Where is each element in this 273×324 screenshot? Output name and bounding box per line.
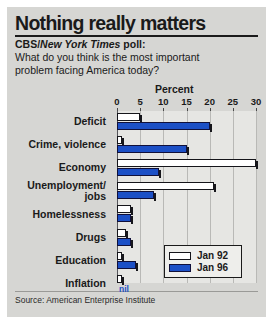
source-note: Source: American Enterprise Institute [15, 295, 155, 305]
gridline [256, 111, 257, 283]
bar-jan96 [117, 122, 210, 130]
category-label: Homelessness [32, 209, 106, 221]
x-axis-title: Percent [155, 83, 194, 95]
category-label: Drugs [76, 232, 106, 244]
bar-row [117, 111, 256, 134]
bar-jan92 [117, 159, 256, 167]
legend-item-old: Jan 92 [169, 250, 237, 261]
source-divider [15, 291, 258, 292]
legend-swatch-jan92 [169, 252, 191, 260]
page-title: Nothing really matters [15, 12, 205, 35]
nil-annotation: nil [119, 284, 129, 294]
category-label-line: Deficit [74, 116, 106, 128]
bar-shadow [131, 240, 133, 248]
category-label: Unemployment/jobs [27, 180, 106, 203]
bar-jan92 [117, 113, 140, 121]
category-label: Deficit [74, 116, 106, 128]
category-label: Inflation [65, 278, 106, 290]
bar-shadow [136, 263, 138, 271]
x-tick-label: 10 [158, 96, 169, 107]
legend-item-new: Jan 96 [169, 262, 237, 273]
bar-jan92 [117, 205, 131, 213]
poll-attribution: CBS/New York Times poll: [15, 38, 146, 50]
poll-question: What do you think is the most important … [15, 51, 233, 76]
category-label-line: Drugs [76, 232, 106, 244]
category-label-line: jobs [27, 191, 106, 203]
poll-suffix: poll: [120, 38, 145, 50]
legend-label-jan96: Jan 96 [197, 262, 228, 273]
category-label-line: Education [55, 255, 106, 267]
bar-jan96 [117, 214, 131, 222]
bar-jan96 [117, 168, 159, 176]
x-tick-label: 0 [114, 96, 119, 107]
bar-shadow [256, 161, 258, 169]
category-label-line: Economy [59, 162, 106, 174]
x-tick-label: 30 [251, 96, 262, 107]
bar-row [117, 157, 256, 180]
legend-swatch-jan96 [169, 264, 191, 272]
legend-label-jan92: Jan 92 [197, 250, 228, 261]
bar-jan96 [117, 238, 131, 246]
x-tick-label: 25 [228, 96, 239, 107]
x-tick-label: 5 [138, 96, 143, 107]
category-label-line: Crime, violence [28, 139, 106, 151]
bar-jan92 [117, 229, 126, 237]
category-label-line: Homelessness [32, 209, 106, 221]
bar-shadow [214, 184, 216, 192]
title-divider [15, 35, 258, 37]
category-label: Crime, violence [28, 139, 106, 151]
chart-canvas: Nothing really matters CBS/New York Time… [7, 7, 266, 317]
bar-shadow [159, 170, 161, 178]
bar-shadow [210, 124, 212, 132]
poll-publication: New York Times [40, 38, 120, 50]
category-label: Education [55, 255, 106, 267]
x-tick-label: 15 [181, 96, 192, 107]
bar-jan96 [117, 191, 154, 199]
bar-jan96 [117, 261, 136, 269]
bar-jan96 [117, 145, 187, 153]
chart-figure: Nothing really matters CBS/New York Time… [0, 0, 273, 324]
bar-row [117, 181, 256, 204]
bar-shadow [187, 147, 189, 155]
bar-row [117, 134, 256, 157]
bar-shadow [131, 216, 133, 224]
poll-prefix: CBS/ [15, 38, 40, 50]
bar-jan92 [117, 182, 214, 190]
category-label: Economy [59, 162, 106, 174]
category-label-line: Inflation [65, 278, 106, 290]
bar-shadow [131, 207, 133, 215]
x-tick-label: 20 [204, 96, 215, 107]
bar-row [117, 204, 256, 227]
chart-legend: Jan 92 Jan 96 [164, 245, 242, 278]
bar-shadow [154, 193, 156, 201]
